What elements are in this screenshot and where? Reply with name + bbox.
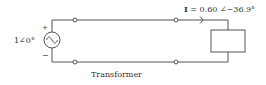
terminal-top-left-icon <box>73 18 77 22</box>
ac-voltage-source-icon <box>44 32 60 48</box>
source-minus-label: − <box>42 51 49 60</box>
terminal-top-right-icon <box>174 18 178 22</box>
transformer-label: Transformer <box>91 70 142 79</box>
current-label: I = 0.60 ∠−36.9° <box>184 4 255 14</box>
source-voltage-label: 1∠0° <box>14 36 35 45</box>
source-plus-label: + <box>42 24 48 32</box>
terminal-bottom-right-icon <box>174 60 178 64</box>
load-impedance-box <box>211 30 245 52</box>
terminal-bottom-left-icon <box>73 60 77 64</box>
circuit-diagram: + − 1∠0° I = 0.60 ∠−36.9° Transformer <box>0 0 266 85</box>
